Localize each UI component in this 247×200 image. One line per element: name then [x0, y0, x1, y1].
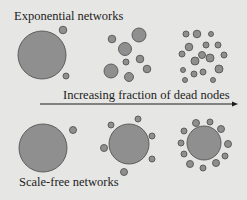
scale-free-stage-3 [178, 119, 232, 171]
exponential-networks-label: Exponential networks [14, 10, 123, 23]
scale-free-stage-1 [19, 124, 77, 172]
exponential-stage-1 [18, 26, 69, 79]
exponential-stage-2 [104, 28, 151, 82]
scale-free-networks-label: Scale-free networks [19, 176, 119, 189]
arrow-icon [40, 102, 238, 107]
arrow-label: Increasing fraction of dead nodes [63, 89, 230, 102]
scale-free-stage-2 [101, 116, 156, 176]
exponential-stage-3 [179, 30, 227, 82]
